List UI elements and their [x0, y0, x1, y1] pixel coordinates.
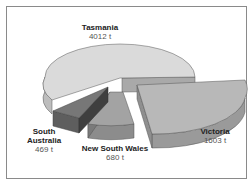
- label-sa-value: 469 t: [22, 145, 66, 154]
- label-sa-name-line2: Australia: [22, 136, 66, 145]
- label-tasmania: Tasmania 4012 t: [70, 23, 130, 41]
- label-victoria: Victoria 1603 t: [190, 127, 240, 145]
- label-nsw: New South Wales 680 t: [75, 144, 155, 162]
- label-tasmania-name: Tasmania: [70, 23, 130, 32]
- label-victoria-value: 1603 t: [190, 136, 240, 145]
- label-south-australia: South Australia 469 t: [22, 127, 66, 154]
- label-nsw-value: 680 t: [75, 153, 155, 162]
- label-tasmania-value: 4012 t: [70, 32, 130, 41]
- label-sa-name-line1: South: [22, 127, 66, 136]
- label-victoria-name: Victoria: [190, 127, 240, 136]
- label-nsw-name: New South Wales: [75, 144, 155, 153]
